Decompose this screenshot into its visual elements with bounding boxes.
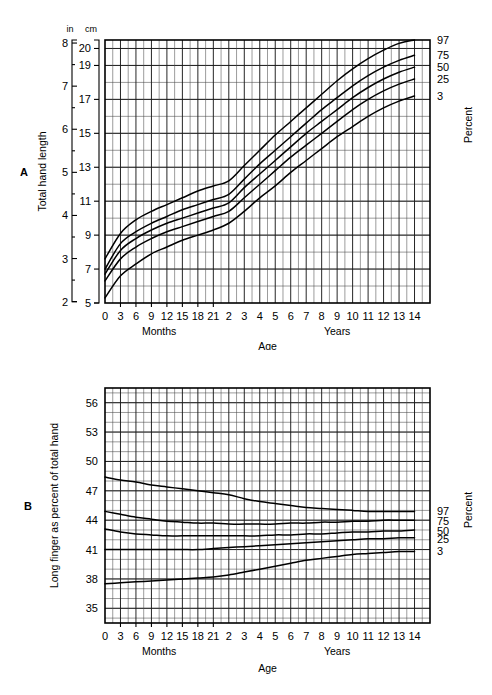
chart-b-months-label: Months [142, 645, 176, 657]
percentile-label-25: 25 [437, 533, 449, 545]
panel-b: 5653504744413835977550253Percent03691215… [0, 350, 492, 695]
chart-a-inch-tick: 8 [62, 37, 68, 49]
chart-b-y-tick: 41 [86, 544, 98, 556]
chart-a-x-tick: 3 [117, 310, 123, 322]
chart-b-x-tick: 2 [226, 630, 232, 642]
chart-a-years-label: Years [324, 325, 350, 337]
chart-a-months-label: Months [142, 325, 176, 337]
chart-a-x-tick: 18 [192, 310, 204, 322]
chart-a-x-tick: 13 [393, 310, 405, 322]
chart-a-x-tick: 4 [257, 310, 263, 322]
chart-b-y-tick: 35 [86, 602, 98, 614]
chart-b-x-tick: 18 [192, 630, 204, 642]
chart-a-inch-tick: 5 [62, 166, 68, 178]
percentile-label-75: 75 [437, 49, 449, 61]
chart-a-cm-tick: 9 [85, 229, 91, 241]
percentile-label-25: 25 [437, 73, 449, 85]
chart-b-x-tick: 14 [408, 630, 420, 642]
chart-b-y-tick: 50 [86, 455, 98, 467]
chart-b-x-tick: 11 [362, 630, 373, 642]
chart-b-x-tick: 12 [377, 630, 389, 642]
chart-b-x-tick: 3 [241, 630, 247, 642]
chart-b-x-axis: 036912151821234567891011121314MonthsYear… [102, 623, 421, 674]
chart-b-x-tick: 12 [161, 630, 173, 642]
chart-a-x-tick: 12 [161, 310, 173, 322]
chart-a-cm-tick: 17 [79, 93, 91, 105]
chart-b-y-tick: 47 [86, 485, 98, 497]
chart-a-cm-tick: 13 [79, 161, 91, 173]
chart-a-left-scales: 8765432in201917151311975cm [62, 24, 99, 309]
chart-a-x-tick: 2 [226, 310, 232, 322]
chart-a-x-tick: 6 [133, 310, 139, 322]
chart-b-percentile-labels: 977550253Percent [437, 492, 474, 557]
chart-a-inch-tick: 6 [62, 123, 68, 135]
chart-b-x-tick: 9 [148, 630, 154, 642]
percentile-label-97: 97 [437, 34, 449, 46]
chart-b-x-tick: 15 [176, 630, 188, 642]
chart-b-x-tick: 5 [272, 630, 278, 642]
chart-a-x-tick: 6 [288, 310, 294, 322]
chart-a-svg: 8765432in201917151311975cm977550253Perce… [0, 0, 492, 350]
chart-b-x-axis-title: Age [258, 662, 277, 674]
chart-b-x-tick: 6 [133, 630, 139, 642]
chart-a-cm-tick: 19 [79, 59, 91, 71]
chart-a-x-tick: 10 [346, 310, 358, 322]
chart-b-x-tick: 10 [346, 630, 358, 642]
chart-a-percentile-labels: 977550253Percent [437, 34, 474, 143]
chart-a-x-tick: 14 [408, 310, 420, 322]
chart-a-x-tick: 15 [176, 310, 188, 322]
chart-a-x-tick: 8 [319, 310, 325, 322]
chart-b-x-tick: 0 [102, 630, 108, 642]
chart-a-cm-tick: 20 [79, 42, 91, 54]
chart-b-y-tick: 56 [86, 397, 98, 409]
chart-a-cm-tick: 7 [85, 263, 91, 275]
chart-a-x-tick: 11 [362, 310, 373, 322]
chart-b-y-tick: 53 [86, 426, 98, 438]
chart-b-y-tick: 38 [86, 573, 98, 585]
chart-a-cm-tick: 5 [85, 297, 91, 309]
chart-b-x-tick: 6 [288, 630, 294, 642]
chart-b-years-label: Years [324, 645, 350, 657]
percentile-label-3: 3 [437, 90, 443, 102]
chart-a-unit-in: in [66, 24, 73, 34]
chart-a-x-tick: 7 [303, 310, 309, 322]
chart-a-cm-tick: 15 [79, 127, 91, 139]
chart-a-percent-axis-title: Percent [462, 107, 474, 143]
chart-b-x-tick: 7 [303, 630, 309, 642]
chart-a-panel-letter: A [20, 166, 28, 178]
chart-a-x-tick: 9 [334, 310, 340, 322]
chart-b-y-tick: 44 [86, 514, 98, 526]
chart-a-cm-tick: 11 [80, 195, 91, 207]
chart-b-x-tick: 8 [319, 630, 325, 642]
chart-a-x-tick: 5 [272, 310, 278, 322]
chart-b-percent-axis-title: Percent [462, 492, 474, 528]
chart-a-x-axis: 036912151821234567891011121314MonthsYear… [102, 303, 421, 350]
chart-b-svg: 5653504744413835977550253Percent03691215… [0, 350, 492, 695]
panel-a: 8765432in201917151311975cm977550253Perce… [0, 0, 492, 350]
chart-a-x-axis-title: Age [258, 340, 277, 350]
chart-a-unit-cm: cm [85, 24, 97, 34]
percentile-label-3: 3 [437, 545, 443, 557]
chart-a-x-tick: 12 [377, 310, 389, 322]
chart-b-x-tick: 13 [393, 630, 405, 642]
chart-a-inch-tick: 4 [62, 209, 68, 221]
chart-b-y-axis: 5653504744413835 [86, 397, 98, 615]
chart-a-x-tick: 9 [148, 310, 154, 322]
percentile-label-50: 50 [437, 61, 449, 73]
chart-a-y-axis-title: Total hand length [36, 131, 48, 211]
chart-a-inch-tick: 2 [62, 296, 68, 308]
chart-a-inch-tick: 3 [62, 253, 68, 265]
chart-b-gridlines [105, 388, 430, 623]
chart-a-x-tick: 0 [102, 310, 108, 322]
chart-a-inch-tick: 7 [62, 80, 68, 92]
chart-b-x-tick: 3 [117, 630, 123, 642]
chart-b-panel-letter: B [24, 500, 32, 512]
chart-b-x-tick: 4 [257, 630, 263, 642]
chart-a-x-tick: 21 [207, 310, 219, 322]
chart-b-x-tick: 21 [207, 630, 219, 642]
chart-b-x-tick: 9 [334, 630, 340, 642]
chart-a-x-tick: 3 [241, 310, 247, 322]
chart-b-y-axis-title: Long finger as percent of total hand [48, 423, 60, 588]
